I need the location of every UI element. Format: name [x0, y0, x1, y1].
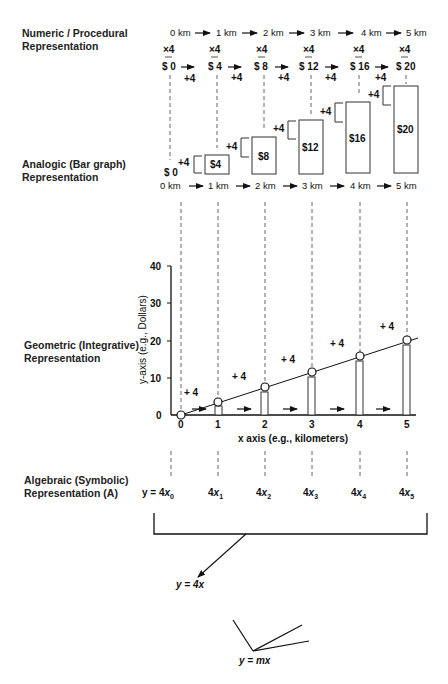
y-tick-label: 20: [150, 336, 162, 347]
bar-label: $8: [258, 151, 270, 162]
x-tick-label: 2: [262, 419, 268, 430]
numeric-multiplier-row: ×4 ×4 ×4 ×4 ×4 ×4: [163, 44, 411, 57]
bar-label: $16: [349, 133, 366, 144]
bar-to-chart-connectors: [181, 202, 407, 413]
x-tick-label: 0: [178, 419, 184, 430]
algebraic-terms: y = 4x0 4x1 4x2 4x3 4x4 4x5: [142, 487, 414, 500]
chart-bar: [261, 392, 268, 415]
analogic-distance: 5 km: [396, 180, 417, 191]
dollar-value: $ 16: [350, 61, 370, 72]
increment-annotation: + 4: [232, 371, 247, 382]
numeric-distance: 1 km: [216, 27, 237, 38]
x-tick-label: 3: [309, 419, 315, 430]
bar-label: $20: [397, 124, 414, 135]
line-chart: 40 30 20 10 0 y-axis (e.g., Dollars) 0 1…: [137, 261, 418, 444]
chart-bar: [308, 377, 315, 415]
increment-label: +4: [375, 72, 387, 83]
line-family-icon: [233, 620, 309, 651]
row-label-algebraic-line1: Algebraic (Symbolic): [24, 474, 128, 486]
increment-label: +4: [368, 89, 380, 100]
dollar-value: $ 4: [208, 61, 222, 72]
row-label-numeric-line2: Representation: [22, 40, 98, 52]
summary-equation: y = 4x: [175, 579, 205, 590]
representations-diagram: Numeric / Procedural Representation Anal…: [0, 0, 448, 684]
multiplier-label: ×4: [303, 44, 315, 55]
algebraic-term: 4x4: [351, 487, 366, 500]
data-point: [214, 398, 222, 406]
chart-bar: [356, 361, 363, 415]
bar-label: $ 0: [164, 167, 178, 178]
analogic-distance: 2 km: [255, 180, 276, 191]
numeric-distance: 5 km: [406, 27, 427, 38]
multiplier-label: ×4: [209, 44, 221, 55]
y-tick-label: 40: [150, 261, 162, 272]
numeric-distance: 4 km: [361, 27, 382, 38]
general-equation: y = mx: [238, 655, 271, 666]
increment-label: +4: [184, 73, 196, 84]
row-label-analogic: Analogic (Bar graph) Representation: [22, 158, 126, 183]
y-tick-label: 0: [156, 410, 162, 421]
increment-annotation: + 4: [184, 387, 199, 398]
row-label-numeric-line1: Numeric / Procedural: [22, 27, 128, 39]
data-point: [261, 383, 269, 391]
x-tick-label: 1: [215, 419, 221, 430]
row-label-geometric: Geometric (Integrative) Representation: [24, 339, 139, 364]
numeric-distance: 0 km: [170, 27, 191, 38]
increment-annotation: + 4: [281, 354, 296, 365]
analogic-distance: 0 km: [160, 180, 181, 191]
numeric-distance: 2 km: [263, 27, 284, 38]
increment-label: +4: [325, 72, 337, 83]
increment-label: +4: [178, 157, 190, 168]
arrow-down-left-icon: [198, 534, 246, 577]
row-label-numeric: Numeric / Procedural Representation: [22, 27, 128, 52]
multiplier-label: ×4: [256, 44, 268, 55]
bar-label: $12: [302, 142, 319, 153]
grouping-bracket: [154, 513, 427, 534]
increment-label: +4: [273, 123, 285, 134]
x-axis-label: x axis (e.g., kilometers): [238, 433, 348, 444]
data-point: [177, 411, 185, 419]
increment-annotation: + 4: [380, 321, 395, 332]
increment-annotation: + 4: [330, 338, 345, 349]
multiplier-label: ×4: [353, 44, 365, 55]
numeric-dollar-row: $ 0 $ 4 $ 8 $ 12 $ 16 $ 20 +4 +4 +4 +4 +…: [162, 61, 416, 84]
dollar-value: $ 20: [396, 61, 416, 72]
multiplier-label: ×4: [399, 44, 411, 55]
increment-label: +4: [278, 72, 290, 83]
dollar-value: $ 8: [254, 61, 268, 72]
x-tick-label: 5: [404, 419, 410, 430]
row-label-algebraic-line2: Representation (A): [24, 487, 118, 499]
dollar-value: $ 0: [162, 61, 176, 72]
increment-label: +4: [231, 72, 243, 83]
algebraic-term: 4x5: [399, 487, 414, 500]
row-label-analogic-line1: Analogic (Bar graph): [22, 158, 126, 170]
x-tick-label: 4: [357, 419, 363, 430]
algebraic-term: 4x3: [303, 487, 318, 500]
y-axis-label: y-axis (e.g., Dollars): [137, 295, 148, 384]
analogic-distance: 3 km: [302, 180, 323, 191]
chart-to-algebraic-connectors: [171, 451, 407, 478]
row-label-algebraic: Algebraic (Symbolic) Representation (A): [24, 474, 128, 499]
data-point: [403, 336, 411, 344]
chart-bar: [215, 406, 222, 415]
algebraic-term: y = 4x0: [142, 487, 174, 500]
numeric-distance-row: 0 km 1 km 2 km 3 km 4 km 5 km: [170, 27, 427, 38]
row-label-analogic-line2: Representation: [22, 171, 98, 183]
chart-bar: [403, 345, 410, 415]
bar-label: $4: [210, 159, 222, 170]
multiplier-label: ×4: [163, 44, 175, 55]
data-point: [356, 352, 364, 360]
algebraic-term: 4x1: [208, 487, 223, 500]
increment-label: +4: [320, 106, 332, 117]
row-label-geometric-line2: Representation: [24, 352, 100, 364]
analogic-distance: 1 km: [208, 180, 229, 191]
numeric-to-bar-connectors: [170, 75, 406, 160]
analogic-distance: 4 km: [350, 180, 371, 191]
dollar-value: $ 12: [299, 61, 319, 72]
data-point: [308, 368, 316, 376]
algebraic-term: 4x2: [256, 487, 271, 500]
y-tick-label: 30: [150, 298, 162, 309]
numeric-distance: 3 km: [310, 27, 331, 38]
analogic-distance-row: 0 km 1 km 2 km 3 km 4 km 5 km: [160, 180, 417, 191]
row-label-geometric-line1: Geometric (Integrative): [24, 339, 139, 351]
